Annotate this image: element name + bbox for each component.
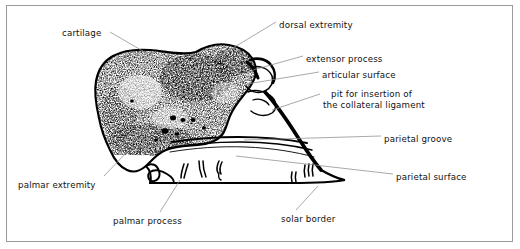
label-solar-border: solar border bbox=[281, 214, 335, 225]
solar-foramina-group bbox=[181, 161, 313, 182]
parietal-groove-contour-2 bbox=[170, 147, 314, 157]
label-pit-collateral-line1: pit for insertion of bbox=[331, 89, 412, 100]
foramen-slit-3 bbox=[217, 161, 219, 173]
leader-solar-border bbox=[296, 186, 318, 210]
foramen-slit-3b bbox=[220, 162, 222, 174]
foramen-slit-2 bbox=[199, 161, 202, 177]
articular-lower-lobe bbox=[248, 91, 276, 116]
bone-body-group bbox=[90, 40, 270, 171]
articular-surface-group bbox=[246, 59, 321, 170]
foramen-slit-5 bbox=[304, 165, 305, 177]
foramen-slit-2b bbox=[203, 161, 206, 177]
label-articular-surface: articular surface bbox=[322, 70, 396, 81]
foramen-slit-1b bbox=[184, 164, 188, 178]
label-palmar-extremity: palmar extremity bbox=[18, 180, 96, 191]
foramen-slit-1 bbox=[181, 164, 184, 178]
foramen-slit-5c bbox=[312, 164, 313, 176]
leader-parietal-surface bbox=[236, 156, 393, 174]
solar-right-tip bbox=[321, 170, 344, 180]
bone-stipple-texture bbox=[90, 40, 270, 156]
label-extensor-process: extensor process bbox=[306, 54, 383, 65]
leader-palmar-process bbox=[160, 180, 180, 212]
palmar-edge-stroke bbox=[265, 92, 321, 170]
collateral-pit bbox=[253, 99, 269, 105]
label-cartilage: cartilage bbox=[62, 28, 101, 39]
foramen-slit-4 bbox=[291, 172, 292, 182]
label-dorsal-extremity: dorsal extremity bbox=[279, 20, 353, 31]
anatomical-figure: cartilagedorsal extremityextensor proces… bbox=[0, 0, 520, 249]
label-pit-collateral-line2: the collateral ligament bbox=[323, 100, 425, 111]
foramen-slit-4b bbox=[295, 172, 296, 182]
label-palmar-process: palmar process bbox=[113, 216, 182, 227]
leader-pit-collateral bbox=[272, 94, 320, 110]
label-parietal-surface: parietal surface bbox=[396, 172, 467, 183]
label-parietal-groove: parietal groove bbox=[384, 134, 452, 145]
foramen-slit-5b bbox=[308, 164, 309, 176]
